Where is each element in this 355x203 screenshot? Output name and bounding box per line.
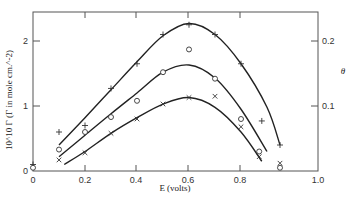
circle-marker <box>278 165 283 170</box>
circle-marker <box>257 149 262 154</box>
x-tick-label: 0.8 <box>234 175 247 185</box>
chart: 00.20.40.60.81.00120.10.2 E (volts) 10^1… <box>0 0 355 203</box>
circle-marker <box>135 98 140 103</box>
y-axis-label: 10^10 Γ (Γ in mole cm.^-2) <box>4 50 14 150</box>
plus-marker <box>277 142 283 148</box>
cross-marker <box>213 94 218 99</box>
x-tick-label: 0.4 <box>130 175 143 185</box>
y-right-tick-label: 0.1 <box>322 101 335 111</box>
circle-marker <box>213 76 218 81</box>
x-tick-label: 1.0 <box>312 175 325 185</box>
cross-marker <box>109 131 114 136</box>
y-axis-right-label: θ <box>341 66 346 76</box>
plus-marker <box>259 118 265 124</box>
y-tick-label: 1 <box>23 101 28 111</box>
circle-marker <box>31 165 36 170</box>
curve-plus <box>59 23 280 145</box>
curve-circle <box>59 65 267 157</box>
x-tick-label: 0 <box>30 175 35 185</box>
cross-marker <box>239 125 244 130</box>
plus-marker <box>108 85 114 91</box>
y-right-tick-label: 0.2 <box>322 36 335 46</box>
x-axis-label: E (volts) <box>159 183 190 193</box>
circle-marker <box>57 147 62 152</box>
circle-marker <box>239 117 244 122</box>
x-tick-label: 0.2 <box>79 175 92 185</box>
plus-marker <box>134 61 140 67</box>
plus-marker <box>56 129 62 135</box>
circle-marker <box>109 115 114 120</box>
plot-frame <box>33 12 318 171</box>
y-tick-label: 2 <box>23 36 28 46</box>
plus-marker <box>82 123 88 129</box>
plus-marker <box>186 22 192 28</box>
y-tick-label: 0 <box>23 166 28 176</box>
circle-marker <box>187 47 192 52</box>
circle-marker <box>83 130 88 135</box>
circle-marker <box>161 70 166 75</box>
fit-curves <box>59 23 280 164</box>
data-markers <box>30 22 283 171</box>
cross-marker <box>57 158 62 163</box>
